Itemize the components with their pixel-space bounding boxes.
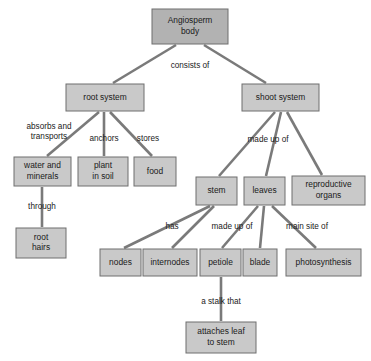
edge-label-a-stalk-that: a stalk that [201,297,241,306]
node-label-reproductive_organs: reproductive [305,179,351,189]
edge-label-text-anchors: anchors [89,134,118,143]
node-label-plant_in_soil: plant [94,160,113,170]
node-label-leaves: leaves [252,185,276,195]
node-label-shoot_system: shoot system [256,92,305,102]
node-angiosperm_body[interactable]: Angiospermbody [152,9,228,44]
node-label-angiosperm_body: Angiosperm [168,15,213,25]
node-label-stem: stem [207,185,225,195]
node-label-attaches_leaf_to_stem: to stem [207,337,234,347]
node-plant_in_soil[interactable]: plantin soil [78,157,128,186]
node-root_system[interactable]: root system [66,84,144,111]
node-water_and_minerals[interactable]: water andminerals [14,157,71,186]
node-label-internodes: internodes [150,257,189,267]
node-label-food: food [147,166,164,176]
node-label-photosynthesis: photosynthesis [296,257,352,267]
node-root_hairs[interactable]: roothairs [16,228,66,258]
edge-label-main-site-of: main site of [286,222,329,231]
node-label-angiosperm_body: body [181,26,200,36]
edge-leaves-to-blade [260,206,264,248]
edge-body-to-root [113,45,176,83]
node-reproductive_organs[interactable]: reproductiveorgans [292,176,365,205]
edge-label-absorbs-and-transports: absorbs andtransports [26,122,72,142]
edge-label-text-consists-of: consists of [171,61,210,70]
edge-label-stores: stores [137,134,159,143]
node-label-reproductive_organs: organs [316,190,342,200]
edge-label-text-made-up-of-shoot: made up of [248,135,290,144]
edge-label-made-up-of-leaves: made up of [212,222,254,231]
node-photosynthesis[interactable]: photosynthesis [286,249,361,276]
node-label-nodes: nodes [109,257,132,267]
edge-label-made-up-of-shoot: made up of [248,135,290,144]
node-internodes[interactable]: internodes [143,249,197,276]
node-blade[interactable]: blade [243,249,277,276]
node-label-root_hairs: root [34,232,49,242]
node-label-water_and_minerals: water and [23,160,61,170]
edge-label-through: through [28,202,56,211]
node-stem[interactable]: stem [196,177,237,205]
edge-label-text-a-stalk-that: a stalk that [201,297,241,306]
node-label-root_hairs: hairs [32,242,50,252]
node-label-attaches_leaf_to_stem: attaches leaf [197,326,245,336]
node-label-blade: blade [250,257,271,267]
node-nodes[interactable]: nodes [100,249,141,276]
node-petiole[interactable]: petiole [200,249,241,276]
edge-label-consists-of: consists of [171,61,210,70]
node-attaches_leaf_to_stem[interactable]: attaches leafto stem [186,322,256,353]
node-leaves[interactable]: leaves [244,177,285,205]
node-label-water_and_minerals: minerals [27,171,59,181]
node-label-plant_in_soil: in soil [92,171,114,181]
edge-label-text-stores: stores [137,134,159,143]
edge-label-text-through: through [28,202,56,211]
node-label-root_system: root system [83,92,126,102]
node-shoot_system[interactable]: shoot system [242,84,319,111]
edge-shoot-to-reproductive [287,112,322,175]
edge-label-text-made-up-of-leaves: made up of [212,222,254,231]
edge-label-has: has [165,222,178,231]
edge-label-text-absorbs-and-transports: absorbs and [26,122,72,131]
edge-label-text-absorbs-and-transports: transports [31,132,67,141]
edge-label-anchors: anchors [89,134,118,143]
node-label-petiole: petiole [208,257,233,267]
node-food[interactable]: food [134,157,176,186]
edge-body-to-shoot [204,45,266,83]
edge-label-text-main-site-of: main site of [286,222,329,231]
edge-label-text-has: has [165,222,178,231]
concept-map-diagram: Angiospermbodyroot systemshoot systemwat… [0,0,371,361]
